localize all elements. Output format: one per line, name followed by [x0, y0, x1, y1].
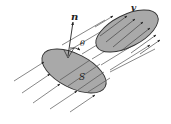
- flux-diagram: n θ S v: [0, 0, 171, 124]
- surface-label: S: [79, 72, 85, 82]
- normal-label: n: [71, 11, 78, 22]
- velocity-label: v: [131, 3, 137, 13]
- projected-surface: [89, 1, 164, 60]
- angle-label: θ: [80, 39, 85, 48]
